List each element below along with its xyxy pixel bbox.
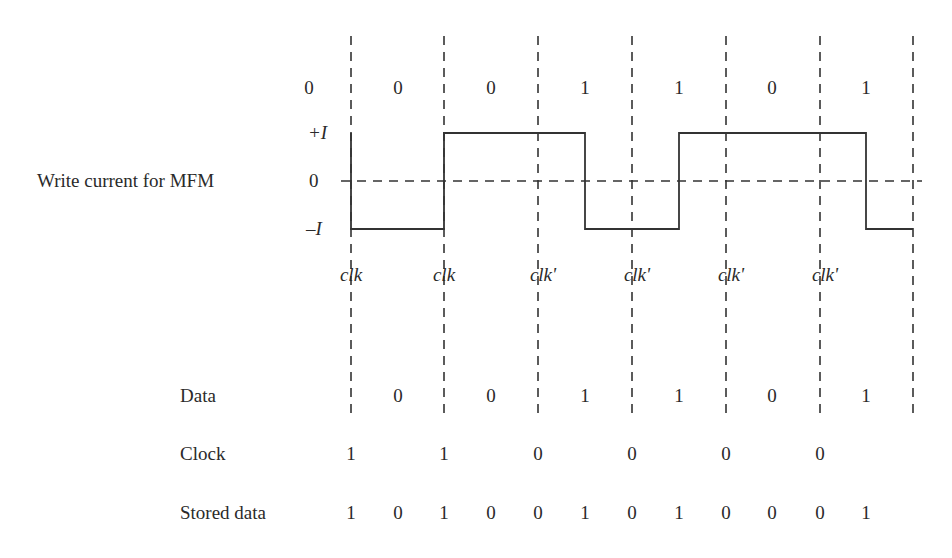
clk-label: clk'	[624, 264, 650, 286]
clock-bit: 1	[439, 443, 449, 465]
top-bit: 0	[767, 77, 777, 99]
data-bit: 1	[674, 385, 684, 407]
clock-bit: 0	[815, 443, 825, 465]
stored-bit: 0	[486, 502, 496, 524]
stored-bit: 0	[627, 502, 637, 524]
level-plus-label: +I	[308, 122, 327, 144]
data-bit: 0	[767, 385, 777, 407]
clock-bit: 0	[721, 443, 731, 465]
top-bit: 0	[304, 77, 314, 99]
clk-label: clk'	[718, 264, 744, 286]
stored-bit: 1	[439, 502, 449, 524]
data-bit: 0	[393, 385, 403, 407]
top-bit: 0	[393, 77, 403, 99]
stored-bit: 1	[580, 502, 590, 524]
top-bit: 1	[861, 77, 871, 99]
waveform-title: Write current for MFM	[37, 170, 214, 192]
stored-bit: 0	[721, 502, 731, 524]
row-label-clock: Clock	[180, 443, 225, 465]
stored-bit: 1	[861, 502, 871, 524]
mfm-diagram-canvas	[0, 0, 952, 558]
stored-bit: 0	[767, 502, 777, 524]
data-bit: 0	[486, 385, 496, 407]
clock-bit: 0	[627, 443, 637, 465]
stored-bit: 0	[393, 502, 403, 524]
stored-bit: 1	[346, 502, 356, 524]
clk-label: clk'	[530, 264, 556, 286]
clk-label: clk	[433, 264, 455, 286]
data-bit: 1	[580, 385, 590, 407]
stored-bit: 0	[533, 502, 543, 524]
level-minus-label: –I	[306, 218, 322, 240]
stored-bit: 1	[674, 502, 684, 524]
row-label-stored-data: Stored data	[180, 502, 266, 524]
top-bit: 1	[674, 77, 684, 99]
stored-bit: 0	[815, 502, 825, 524]
clk-label: clk'	[812, 264, 838, 286]
top-bit: 0	[486, 77, 496, 99]
clock-bit: 1	[346, 443, 356, 465]
top-bit: 1	[580, 77, 590, 99]
level-zero-label: 0	[309, 170, 319, 192]
data-bit: 1	[861, 385, 871, 407]
row-label-data: Data	[180, 385, 216, 407]
bit-cell-boundaries	[351, 36, 913, 420]
clock-bit: 0	[533, 443, 543, 465]
clk-label: clk	[340, 264, 362, 286]
